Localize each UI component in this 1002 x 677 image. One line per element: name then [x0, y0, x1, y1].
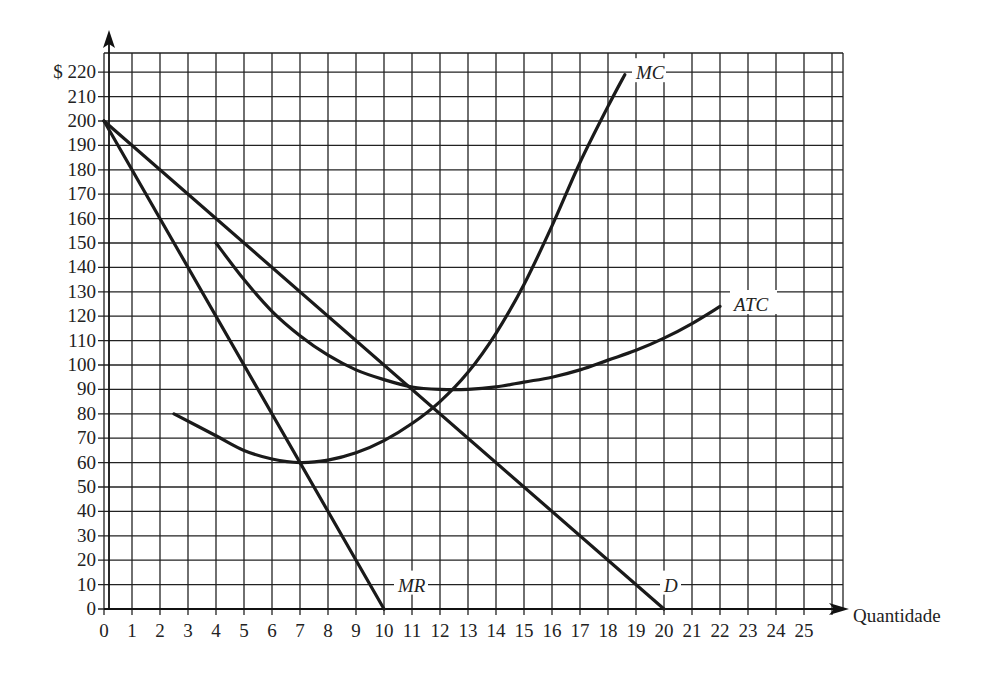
y-tick-label: 210 — [68, 86, 97, 107]
curve-mc — [174, 75, 625, 463]
tick-labels: 0123456789101112131415161718192021222324… — [53, 61, 813, 641]
y-tick-label: 150 — [68, 232, 97, 253]
x-tick-label: 14 — [487, 620, 507, 641]
x-tick-label: 18 — [599, 620, 618, 641]
y-tick-label: 80 — [77, 403, 96, 424]
x-tick-label: 23 — [739, 620, 758, 641]
x-tick-label: 4 — [211, 620, 221, 641]
x-tick-label: 2 — [155, 620, 165, 641]
x-tick-label: 10 — [375, 620, 394, 641]
x-tick-label: 12 — [431, 620, 450, 641]
x-tick-label: 21 — [683, 620, 702, 641]
y-tick-label: $ 220 — [53, 61, 96, 82]
x-tick-label: 5 — [239, 620, 249, 641]
x-axis-title: Quantidade — [853, 605, 941, 626]
x-tick-label: 16 — [543, 620, 562, 641]
curve-label-mc: MC — [635, 62, 665, 83]
grid — [98, 53, 843, 615]
y-tick-label: 70 — [77, 427, 96, 448]
y-tick-label: 40 — [77, 500, 96, 521]
x-tick-label: 1 — [127, 620, 137, 641]
y-tick-label: 190 — [68, 134, 97, 155]
axes — [103, 30, 849, 615]
x-tick-label: 19 — [627, 620, 646, 641]
y-tick-label: 0 — [87, 598, 97, 619]
curve-label-d: D — [663, 575, 678, 596]
x-tick-label: 6 — [267, 620, 277, 641]
x-tick-label: 13 — [459, 620, 478, 641]
x-tick-label: 15 — [515, 620, 534, 641]
x-tick-label: 22 — [711, 620, 730, 641]
y-tick-label: 120 — [68, 305, 97, 326]
y-tick-label: 90 — [77, 378, 96, 399]
cost-revenue-chart: 0123456789101112131415161718192021222324… — [0, 0, 1002, 677]
x-tick-label: 24 — [767, 620, 787, 641]
y-tick-label: 100 — [68, 354, 97, 375]
x-tick-label: 0 — [99, 620, 109, 641]
y-tick-label: 110 — [68, 330, 96, 351]
y-tick-label: 30 — [77, 525, 96, 546]
y-tick-label: 130 — [68, 281, 97, 302]
x-tick-label: 8 — [323, 620, 333, 641]
y-tick-label: 160 — [68, 208, 97, 229]
x-tick-label: 20 — [655, 620, 674, 641]
y-tick-label: 50 — [77, 476, 96, 497]
y-tick-label: 60 — [77, 452, 96, 473]
y-tick-label: 140 — [68, 256, 97, 277]
x-tick-label: 25 — [795, 620, 814, 641]
x-tick-label: 17 — [571, 620, 590, 641]
x-tick-label: 11 — [403, 620, 421, 641]
x-tick-label: 3 — [183, 620, 193, 641]
y-tick-label: 10 — [77, 574, 96, 595]
y-tick-label: 180 — [68, 159, 97, 180]
y-tick-label: 20 — [77, 549, 96, 570]
x-tick-label: 9 — [351, 620, 361, 641]
x-tick-label: 7 — [295, 620, 305, 641]
y-tick-label: 200 — [68, 110, 97, 131]
curve-label-atc: ATC — [732, 294, 768, 315]
y-tick-label: 170 — [68, 183, 97, 204]
curve-label-mr: MR — [397, 575, 426, 596]
